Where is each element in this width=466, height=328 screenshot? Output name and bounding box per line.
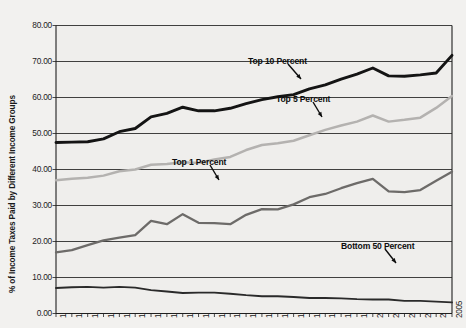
annotation-label-bottom-50-percent: Bottom 50 Percent	[341, 241, 414, 251]
income-tax-share-line-chart: % of Income Taxes Paid by Different Inco…	[0, 0, 466, 328]
plot-area	[0, 0, 466, 328]
annotation-label-top-5-percent: Top 5 Percent	[276, 94, 330, 104]
annotation-label-top-1-percent: Top 1 Percent	[172, 157, 226, 167]
annotation-label-top-10-percent: Top 10 Percent	[248, 56, 307, 66]
